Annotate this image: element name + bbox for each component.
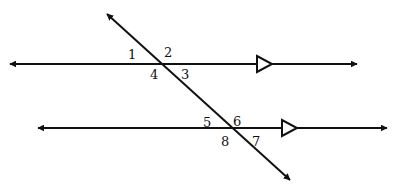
angle-label-6: 6 bbox=[233, 114, 241, 129]
angle-label-2: 2 bbox=[164, 45, 172, 60]
angle-label-4: 4 bbox=[150, 67, 158, 82]
parallel-marker-bottom-icon bbox=[282, 120, 297, 136]
parallel-marker-top-icon bbox=[257, 56, 272, 72]
angle-label-8: 8 bbox=[221, 134, 229, 149]
angle-label-3: 3 bbox=[181, 67, 189, 82]
transversal-line bbox=[107, 14, 290, 180]
angle-label-5: 5 bbox=[203, 115, 211, 130]
diagram-svg: 1 2 4 3 5 6 8 7 bbox=[0, 0, 394, 190]
angle-label-1: 1 bbox=[128, 47, 136, 62]
angle-label-7: 7 bbox=[252, 134, 260, 149]
diagram-canvas: 1 2 4 3 5 6 8 7 bbox=[0, 0, 394, 190]
